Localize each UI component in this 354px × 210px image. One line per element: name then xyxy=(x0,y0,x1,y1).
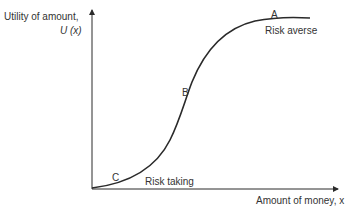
y-axis-symbol: U (x) xyxy=(60,25,82,37)
point-b-label: B xyxy=(182,87,189,99)
point-a-label: A xyxy=(271,9,278,21)
x-axis-label: Amount of money, x xyxy=(256,195,344,207)
utility-curve xyxy=(92,17,310,188)
risk-averse-label: Risk averse xyxy=(265,25,317,37)
point-c-label: C xyxy=(112,172,119,184)
y-axis-label: Utility of amount, xyxy=(4,11,78,23)
risk-taking-label: Risk taking xyxy=(145,176,194,188)
